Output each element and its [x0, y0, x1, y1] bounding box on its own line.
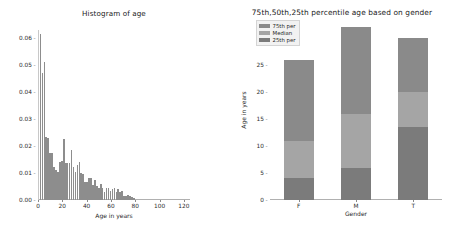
percentile-segment-75th: [284, 60, 314, 141]
percentile-y-tick-label: 20-: [257, 89, 268, 95]
percentile-x-tick-label: F: [297, 203, 300, 210]
legend-item-median[interactable]: Median: [259, 30, 296, 36]
histogram-title: Histogram of age: [0, 9, 228, 18]
percentile-y-tick-label: 25-: [257, 62, 268, 68]
percentile-segment-25th: [284, 178, 314, 200]
histogram-figure: Histogram of age 0.00-0.01-0.02-0.03-0.0…: [0, 0, 228, 226]
histogram-y-tick-label: 0.06-: [19, 35, 36, 41]
percentile-y-axis-label: Age in years: [240, 70, 247, 150]
histogram-x-tick-label: 0: [36, 203, 40, 210]
histogram-x-tick-mark: [160, 200, 161, 202]
percentile-segment-25th: [341, 168, 371, 200]
percentile-legend[interactable]: 75th per Median 25th per: [256, 20, 300, 46]
legend-swatch-median-icon: [259, 31, 270, 35]
percentile-bar: [284, 60, 314, 200]
histogram-x-axis-label: Age in years: [38, 212, 190, 219]
percentile-title: 75th,50th,25th percentile age based on g…: [228, 8, 456, 17]
percentile-bar: [398, 38, 428, 200]
histogram-x-tick-label: 120: [178, 203, 189, 210]
histogram-y-tick-label: 0.00-: [19, 197, 36, 203]
histogram-y-axis: [38, 30, 39, 200]
legend-label-median: Median: [273, 30, 293, 36]
percentile-segment-75th: [398, 38, 428, 92]
legend-label-25th: 25th per: [273, 37, 296, 43]
two-chart-figure: Histogram of age 0.00-0.01-0.02-0.03-0.0…: [0, 0, 456, 226]
histogram-y-tick-label: 0.04-: [19, 89, 36, 95]
histogram-y-tick-label: 0.03-: [19, 116, 36, 122]
percentile-segment-median: [341, 114, 371, 168]
percentile-segment-median: [398, 92, 428, 127]
percentile-x-tick-label: M: [353, 203, 358, 210]
percentile-plot-area: FMT0-5-10-15-20-25-30-: [270, 22, 442, 200]
histogram-x-tick-label: 20: [59, 203, 66, 210]
percentile-y-tick-label: 15-: [257, 116, 268, 122]
histogram-x-tick-mark: [184, 200, 185, 202]
percentile-segment-25th: [398, 127, 428, 200]
percentile-y-tick-label: 10-: [257, 143, 268, 149]
percentile-y-tick-label: 0-: [260, 197, 267, 203]
legend-label-75th: 75th per: [273, 23, 296, 29]
percentile-bar: [341, 27, 371, 200]
percentile-segment-median: [284, 141, 314, 179]
legend-swatch-25th-icon: [259, 38, 270, 42]
histogram-x-tick-mark: [135, 200, 136, 202]
percentile-x-axis-label: Gender: [270, 210, 442, 217]
percentile-segment-75th: [341, 27, 371, 113]
histogram-x-tick-label: 60: [107, 203, 114, 210]
percentile-x-tick-mark: [356, 200, 357, 202]
histogram-x-tick-label: 100: [154, 203, 165, 210]
percentile-x-tick-mark: [413, 200, 414, 202]
legend-item-25th[interactable]: 25th per: [259, 37, 296, 43]
histogram-plot-area: 0.00-0.01-0.02-0.03-0.04-0.05-0.06-02040…: [38, 30, 190, 200]
percentile-y-tick-label: 5-: [260, 170, 267, 176]
legend-swatch-75th-icon: [259, 24, 270, 28]
histogram-x-tick-mark: [87, 200, 88, 202]
histogram-x-tick-mark: [62, 200, 63, 202]
legend-item-75th[interactable]: 75th per: [259, 23, 296, 29]
histogram-y-tick-label: 0.01-: [19, 170, 36, 176]
histogram-x-tick-label: 80: [132, 203, 139, 210]
histogram-x-tick-mark: [111, 200, 112, 202]
histogram-y-tick-label: 0.05-: [19, 62, 36, 68]
percentile-x-tick-mark: [299, 200, 300, 202]
histogram-x-tick-mark: [38, 200, 39, 202]
histogram-y-tick-label: 0.02-: [19, 143, 36, 149]
percentile-x-tick-label: T: [412, 203, 416, 210]
percentile-figure: 75th,50th,25th percentile age based on g…: [228, 0, 456, 226]
histogram-x-tick-label: 40: [83, 203, 90, 210]
